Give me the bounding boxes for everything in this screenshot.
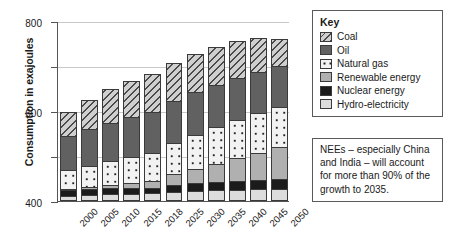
bar-2030[interactable] xyxy=(187,54,204,201)
bar-segment-renewable-energy xyxy=(271,147,288,179)
bar-2018[interactable] xyxy=(144,74,161,201)
bar-segment-renewable-energy xyxy=(229,158,246,181)
bar-segment-oil xyxy=(187,92,204,134)
bar-segment-natural-gas xyxy=(60,170,77,188)
x-axis-label-2010: 2010 xyxy=(120,206,143,229)
y-axis-tick-label: 800 xyxy=(25,18,42,29)
bar-segment-coal xyxy=(271,39,288,66)
legend-item-oil[interactable]: Oil xyxy=(320,45,436,56)
legend-swatch-icon xyxy=(320,45,332,55)
x-axis-label-2050: 2050 xyxy=(288,206,311,229)
bar-2005[interactable] xyxy=(81,100,98,201)
bar-segment-natural-gas xyxy=(271,107,288,148)
legend-item-label: Natural gas xyxy=(337,58,388,69)
bar-segment-natural-gas xyxy=(144,153,161,181)
x-axis-label-2005: 2005 xyxy=(99,206,122,229)
legend-item-label: Oil xyxy=(337,45,349,56)
legend-item-label: Nuclear energy xyxy=(337,85,405,96)
y-axis-tick: 400 xyxy=(51,112,58,113)
bar-segment-hydro-electricity xyxy=(166,192,183,201)
bar-2010[interactable] xyxy=(102,89,119,201)
x-axis-label-2045: 2045 xyxy=(267,206,290,229)
bar-segment-oil xyxy=(166,101,183,143)
bar-segment-nuclear-energy xyxy=(250,180,267,189)
y-axis-tick-label: 600 xyxy=(25,108,42,119)
x-axis-label-2000: 2000 xyxy=(77,206,100,229)
bar-segment-renewable-energy xyxy=(250,153,267,180)
x-axis-label-2030: 2030 xyxy=(204,206,227,229)
legend-item-natural-gas[interactable]: Natural gas xyxy=(320,58,436,69)
bar-segment-coal xyxy=(208,47,225,85)
bar-segment-hydro-electricity xyxy=(144,193,161,201)
bar-segment-coal xyxy=(123,81,140,118)
bar-2050[interactable] xyxy=(271,39,288,201)
bar-2025[interactable] xyxy=(166,63,183,201)
plot-area: 0200400600800 xyxy=(57,22,289,202)
bar-segment-hydro-electricity xyxy=(271,189,288,201)
chart-canvas: Consumption in exajoules 0200400600800 2… xyxy=(0,0,451,243)
x-axis-label-2018: 2018 xyxy=(162,206,185,229)
x-axis-label-2025: 2025 xyxy=(183,206,206,229)
bar-segment-nuclear-energy xyxy=(166,185,183,192)
bar-segment-nuclear-energy xyxy=(271,179,288,189)
bar-2045[interactable] xyxy=(250,38,267,201)
bar-segment-natural-gas xyxy=(229,120,246,158)
bar-segment-nuclear-energy xyxy=(187,183,204,191)
bar-segment-natural-gas xyxy=(250,113,267,153)
bar-segment-hydro-electricity xyxy=(102,194,119,201)
bar-2040[interactable] xyxy=(229,41,246,201)
legend-item-renewable-energy[interactable]: Renewable energy xyxy=(320,72,436,83)
legend-item-label: Coal xyxy=(337,31,358,42)
annotation-box: NEEs – especially China and India – will… xyxy=(312,138,443,202)
legend-item-label: Renewable energy xyxy=(337,72,420,83)
bar-group xyxy=(58,22,289,201)
bar-segment-hydro-electricity xyxy=(123,194,140,201)
y-axis-tick-label: 400 xyxy=(25,198,42,209)
bar-segment-coal xyxy=(144,74,161,112)
bar-segment-nuclear-energy xyxy=(208,182,225,190)
bar-segment-hydro-electricity xyxy=(187,191,204,201)
bar-segment-renewable-energy xyxy=(166,174,183,185)
bar-segment-natural-gas xyxy=(81,166,98,187)
bar-segment-hydro-electricity xyxy=(250,189,267,201)
bar-segment-oil xyxy=(271,66,288,106)
bar-2000[interactable] xyxy=(60,112,77,201)
y-axis-tick: 800 xyxy=(51,22,58,23)
bar-segment-oil xyxy=(60,136,77,170)
legend-item-nuclear-energy[interactable]: Nuclear energy xyxy=(320,85,436,96)
bar-segment-coal xyxy=(60,112,77,136)
bar-segment-renewable-energy xyxy=(208,164,225,182)
legend-swatch-icon xyxy=(320,86,332,96)
bar-segment-coal xyxy=(229,41,246,78)
bar-segment-hydro-electricity xyxy=(60,196,77,201)
bar-segment-renewable-energy xyxy=(187,169,204,184)
bar-segment-renewable-energy xyxy=(144,181,161,188)
legend-item-label: Hydro-electricity xyxy=(337,99,409,110)
bar-segment-oil xyxy=(208,85,225,127)
y-axis-tick: 0 xyxy=(51,202,58,203)
legend-item-hydro-electricity[interactable]: Hydro-electricity xyxy=(320,99,436,110)
bar-segment-natural-gas xyxy=(166,143,183,175)
bar-segment-natural-gas xyxy=(123,157,140,183)
x-axis-label-2015: 2015 xyxy=(141,206,164,229)
bar-segment-hydro-electricity xyxy=(229,190,246,201)
bar-segment-natural-gas xyxy=(102,161,119,185)
bar-segment-oil xyxy=(250,72,267,113)
legend-swatch-icon xyxy=(320,72,332,82)
legend-item-coal[interactable]: Coal xyxy=(320,31,436,42)
bar-segment-coal xyxy=(187,54,204,93)
bar-2035[interactable] xyxy=(208,47,225,201)
y-axis-tick: 200 xyxy=(51,157,58,158)
bar-segment-coal xyxy=(102,89,119,123)
bar-segment-nuclear-energy xyxy=(229,181,246,190)
bar-2015[interactable] xyxy=(123,81,140,201)
legend-title: Key xyxy=(320,16,436,28)
legend-box: Key CoalOilNatural gasRenewable energyNu… xyxy=(312,10,443,117)
y-axis-title: Consumption in exajoules xyxy=(23,7,35,197)
bar-segment-natural-gas xyxy=(208,127,225,163)
bar-segment-coal xyxy=(166,63,183,101)
bar-segment-hydro-electricity xyxy=(208,190,225,201)
bar-segment-natural-gas xyxy=(187,135,204,169)
annotation-text: NEEs – especially China and India – will… xyxy=(320,144,430,195)
bar-segment-oil xyxy=(123,117,140,157)
